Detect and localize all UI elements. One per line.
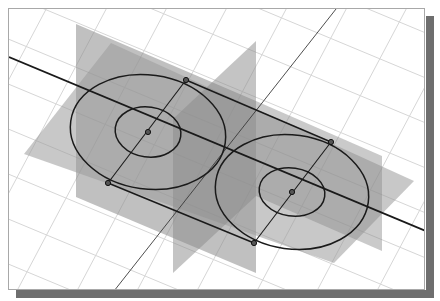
tangent-point[interactable] (251, 240, 256, 245)
graphics-viewport[interactable] (8, 8, 425, 290)
frame-shadow-right (426, 16, 434, 298)
tangent-point[interactable] (105, 180, 110, 185)
frame-shadow-bottom (16, 290, 434, 298)
center-point-left[interactable] (145, 129, 150, 134)
tangent-point[interactable] (328, 139, 333, 144)
tangent-point[interactable] (183, 77, 188, 82)
center-point-right[interactable] (289, 189, 294, 194)
3d-scene (9, 9, 425, 290)
